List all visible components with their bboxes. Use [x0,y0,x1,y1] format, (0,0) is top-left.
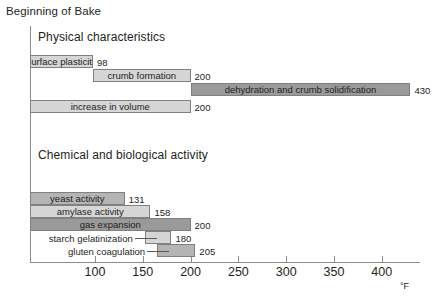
bar-value-label: 180 [175,234,191,244]
x-axis-tick-label: 150 [132,265,153,279]
x-axis-tick-label: 100 [85,265,106,279]
bake-temperature-chart: Beginning of Bake 100150200250300350400 … [0,0,437,299]
x-axis-tick [382,256,383,262]
bar-label: crumb formation [108,71,177,81]
chart-bar: amylase activity [30,205,150,218]
chart-bar: crumb formation [93,69,191,82]
bar-value-label: 200 [195,221,211,231]
bar-label: increase in volume [71,102,150,112]
bar-label: amylase activity [57,207,124,217]
x-axis-tick-label: 400 [371,265,392,279]
bar-value-label: 200 [195,72,211,82]
chart-bar: dehydration and crumb solidification [191,83,411,96]
x-axis-tick-label: 250 [228,265,249,279]
chart-bar: gas expansion [30,218,191,231]
x-axis-unit-label: °F [400,281,409,291]
bar-value-label: 98 [97,58,108,68]
x-axis-tick-label: 350 [324,265,345,279]
bar-label: yeast activity [50,194,104,204]
bar-value-label: 430 [414,86,430,96]
x-axis-tick [238,256,239,262]
bar-value-label: 200 [195,103,211,113]
x-axis-line [30,262,420,263]
x-axis-tick-label: 300 [276,265,297,279]
leader-line [135,238,157,239]
x-axis-tick-label: 200 [180,265,201,279]
leader-line [147,251,169,252]
bar-label: dehydration and crumb solidification [225,85,377,95]
x-axis-tick [334,256,335,262]
bar-label: gluten coagulation [0,247,145,257]
section-heading: Chemical and biological activity [38,148,208,162]
chart-bar: increase in volume [30,100,191,113]
bar-label: gas expansion [80,220,141,230]
bar-value-label: 131 [129,195,145,205]
bar-value-label: 205 [199,247,215,257]
bar-value-label: 158 [154,208,170,218]
bar-label: starch gelatinization [0,234,133,244]
section-heading: Physical characteristics [38,30,165,44]
x-axis-tick [286,256,287,262]
page-title: Beginning of Bake [6,5,101,17]
chart-bar: surface plasticity [30,55,93,68]
bar-label: surface plasticity [30,57,93,67]
chart-bar: yeast activity [30,192,125,205]
